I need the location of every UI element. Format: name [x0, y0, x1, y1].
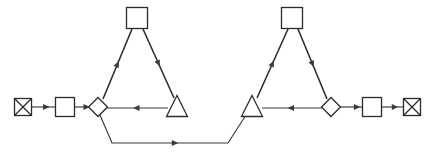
- square-shape: [282, 8, 303, 29]
- node-source-terminal[interactable]: [15, 99, 32, 116]
- square-shape: [56, 98, 75, 117]
- edge-edge-output-to-sink: [382, 104, 403, 110]
- node-sink-terminal[interactable]: [404, 99, 421, 116]
- arrowhead-icon: [172, 140, 178, 146]
- node-left-diamond[interactable]: [89, 98, 108, 117]
- arrowhead-icon: [133, 105, 139, 111]
- edge-edge-left-diamond-to-right-triangle: [100, 115, 246, 146]
- edge-edge-left-triangle-to-diamond: [107, 105, 168, 111]
- edge-edge-right-diamond-to-triangle: [262, 105, 322, 111]
- diagram-canvas: [0, 0, 435, 160]
- edge-edge-right-diamond-to-output: [340, 104, 362, 110]
- node-right-triangle[interactable]: [242, 96, 263, 117]
- square-shape: [127, 8, 148, 29]
- node-right-apex-square[interactable]: [282, 8, 303, 29]
- node-layer: [15, 8, 421, 117]
- node-input-square[interactable]: [56, 98, 75, 117]
- process-flow-diagram: [0, 0, 435, 160]
- square-shape: [363, 98, 382, 117]
- arrowhead-icon: [392, 104, 398, 110]
- edge-edge-left-diamond-to-apex: [103, 29, 132, 99]
- edge-edge-right-triangle-to-apex: [257, 29, 288, 98]
- edge-edge-source-to-input: [32, 104, 55, 110]
- node-right-diamond[interactable]: [322, 98, 341, 117]
- arrowhead-icon: [288, 105, 294, 111]
- triangle-shape: [242, 96, 263, 117]
- arrowhead-icon: [354, 104, 360, 110]
- arrowhead-icon: [43, 104, 49, 110]
- triangle-shape: [167, 96, 188, 117]
- edge-layer: [32, 29, 403, 146]
- node-left-triangle[interactable]: [167, 96, 188, 117]
- node-output-square[interactable]: [363, 98, 382, 117]
- diamond-shape: [89, 98, 108, 117]
- edge-path: [100, 115, 246, 143]
- edge-edge-right-apex-to-diamond: [298, 29, 327, 99]
- diamond-shape: [322, 98, 341, 117]
- node-left-apex-square[interactable]: [127, 8, 148, 29]
- edge-edge-left-apex-to-triangle: [143, 29, 174, 98]
